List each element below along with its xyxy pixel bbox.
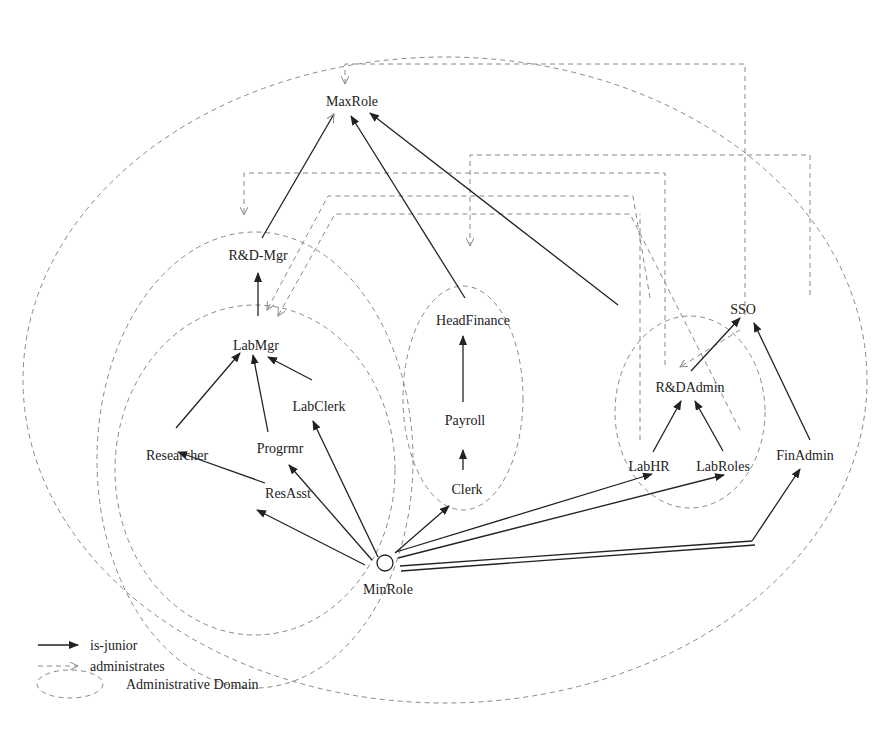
legend-domain: Administrative Domain (126, 677, 259, 692)
role-progrmr: Progrmr (257, 441, 304, 456)
role-researcher: Researcher (146, 448, 209, 463)
role-labclerk: LabClerk (293, 399, 346, 414)
role-clerk: Clerk (451, 482, 482, 497)
domain-outer (23, 57, 867, 703)
administrates-edges (244, 64, 810, 440)
role-headfinance: HeadFinance (436, 313, 510, 328)
role-maxrole: MaxRole (326, 94, 378, 109)
role-rdadmin: R&DAdmin (655, 380, 724, 395)
role-minrole: MinRole (363, 582, 413, 597)
minrole-node (377, 555, 393, 571)
role-resasst: ResAsst (265, 486, 311, 501)
domain-lab (115, 305, 395, 635)
role-labhr: LabHR (628, 459, 670, 474)
legend-administrates: administrates (90, 659, 165, 674)
role-rd-mgr: R&D-Mgr (228, 248, 287, 263)
role-labroles: LabRoles (696, 459, 750, 474)
legend: is-junior administrates Administrative D… (37, 638, 259, 698)
legend-ellipse-icon (37, 670, 103, 698)
role-payroll: Payroll (445, 413, 486, 428)
domain-admin (615, 316, 765, 508)
role-labmgr: LabMgr (233, 338, 279, 353)
role-finadmin: FinAdmin (776, 448, 834, 463)
domain-rd (97, 232, 413, 688)
role-sso: SSO (730, 302, 756, 317)
legend-is-junior: is-junior (90, 638, 138, 653)
role-hierarchy-diagram: MaxRole R&D-Mgr LabMgr LabClerk Research… (0, 0, 892, 735)
